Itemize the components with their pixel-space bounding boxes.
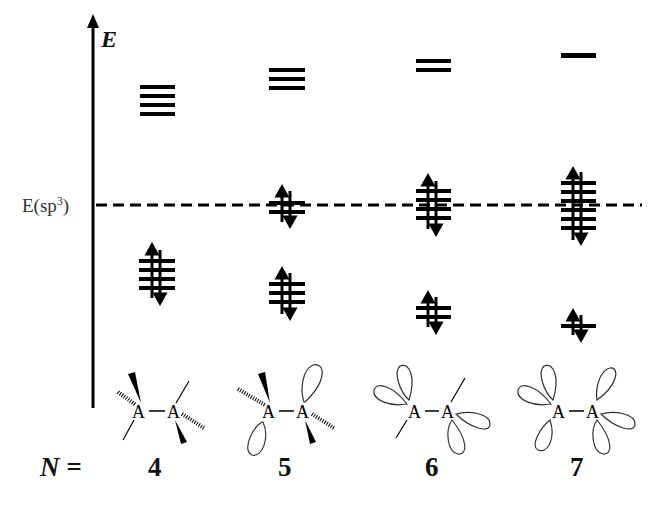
svg-text:A: A	[552, 402, 565, 422]
column-n7-levels	[561, 53, 596, 340]
column-label-n4: 4	[148, 452, 162, 483]
svg-text:A: A	[408, 402, 421, 422]
column-label-n6: 6	[425, 452, 439, 483]
energy-axis-label: E	[101, 26, 117, 53]
electron-pair-arrows	[147, 245, 165, 303]
svg-text:A: A	[441, 402, 454, 422]
column-n5-levels	[269, 68, 305, 318]
sp3-reference-label: E(sp3)	[22, 194, 69, 217]
energy-level-diagram: AA AA AA AA	[0, 0, 668, 505]
ref-label-suffix: )	[63, 195, 69, 216]
n-label: N =	[40, 452, 82, 483]
column-n4-levels	[138, 85, 176, 303]
structure-n5: AA	[238, 365, 334, 456]
column-label-n5: 5	[278, 452, 292, 483]
structure-n7: AA	[518, 365, 635, 454]
n-label-text: N =	[40, 452, 82, 482]
axis-arrow-icon	[87, 14, 99, 28]
svg-text:A: A	[167, 402, 180, 422]
svg-text:A: A	[296, 402, 309, 422]
bonding-levels	[138, 259, 176, 290]
structure-n6: AA	[374, 365, 490, 454]
energy-axis	[87, 14, 99, 408]
column-label-n7: 7	[570, 452, 584, 483]
antibonding-levels	[140, 85, 175, 116]
structure-n4: AA	[118, 372, 204, 444]
ref-label-prefix: E(sp	[22, 195, 57, 216]
svg-text:A: A	[586, 402, 599, 422]
column-n6-levels	[416, 59, 451, 332]
